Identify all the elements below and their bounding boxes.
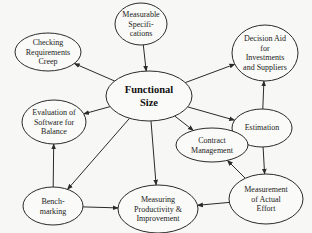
node-label-line: Decision Aid bbox=[244, 34, 286, 44]
node-label-line: Measurement bbox=[244, 185, 288, 195]
node-label-line: Estimation bbox=[245, 123, 280, 133]
node-label-estimation: Estimation bbox=[245, 123, 280, 133]
node-label-line: Creep bbox=[38, 57, 57, 67]
node-label-line: Balance bbox=[41, 127, 67, 137]
node-label-decision-aid: Decision AidforInvestmentsand Suppliers bbox=[243, 34, 287, 72]
node-label-line: Improvement bbox=[136, 214, 179, 224]
node-label-line: Investments bbox=[246, 53, 285, 63]
diagram-canvas: MeasurableSpecifi-cationsCheckingRequire… bbox=[0, 0, 312, 233]
edge-benchmarking-to-measuring-productivity bbox=[83, 207, 118, 208]
node-label-line: Contract bbox=[198, 136, 226, 146]
node-label-measuring-productivity: MeasuringProductivity &Improvement bbox=[134, 195, 182, 224]
node-label-line: marking bbox=[40, 206, 67, 216]
edge-estimation-to-decision-aid bbox=[263, 81, 264, 109]
node-label-evaluation-of-software: Evaluation ofSoftware forBalance bbox=[32, 108, 75, 137]
edge-measurable-specifications-to-functional-size bbox=[143, 45, 146, 71]
node-label-line: Effort bbox=[257, 204, 276, 214]
node-label-line: Productivity & bbox=[134, 204, 182, 214]
node-label-contract-management: ContractManagement bbox=[191, 136, 233, 155]
node-label-line: Functional bbox=[125, 83, 173, 96]
node-label-line: of Actual bbox=[251, 194, 281, 204]
edge-functional-size-to-contract-management bbox=[175, 116, 194, 131]
node-label-line: Requirements bbox=[26, 47, 70, 57]
node-label-line: and Suppliers bbox=[243, 63, 287, 73]
node-label-line: Specifi- bbox=[128, 19, 153, 29]
node-label-checking-requirements-creep: CheckingRequirementsCreep bbox=[26, 38, 70, 67]
edge-estimation-to-measurement-actual-effort bbox=[263, 147, 265, 174]
node-label-line: cations bbox=[130, 29, 153, 39]
node-label-line: Management bbox=[191, 145, 233, 155]
node-label-line: for bbox=[260, 44, 269, 54]
node-label-line: Measuring bbox=[141, 195, 175, 205]
edge-measurement-actual-effort-to-measuring-productivity bbox=[198, 202, 230, 205]
node-label-line: Evaluation of bbox=[32, 108, 75, 118]
edge-functional-size-to-estimation bbox=[188, 107, 235, 120]
edge-functional-size-to-evaluation-of-software bbox=[84, 107, 110, 114]
node-label-line: Size bbox=[140, 96, 158, 109]
node-label-line: Bench- bbox=[41, 197, 64, 207]
node-label-line: Checking bbox=[33, 38, 64, 48]
node-label-measurable-specifications: MeasurableSpecifi-cations bbox=[122, 10, 159, 39]
edge-benchmarking-to-evaluation-of-software bbox=[53, 144, 54, 187]
node-label-line: Measurable bbox=[122, 10, 159, 20]
node-label-measurement-actual-effort: Measurementof ActualEffort bbox=[244, 185, 288, 214]
node-label-functional-size: FunctionalSize bbox=[125, 83, 173, 109]
edge-functional-size-to-measuring-productivity bbox=[151, 121, 156, 185]
node-label-benchmarking: Bench-marking bbox=[40, 197, 67, 216]
edge-functional-size-to-decision-aid bbox=[185, 64, 235, 82]
edge-measurement-actual-effort-to-contract-management bbox=[227, 160, 245, 178]
node-label-line: Software for bbox=[34, 117, 74, 127]
edge-functional-size-to-checking-requirements-creep bbox=[74, 64, 114, 82]
